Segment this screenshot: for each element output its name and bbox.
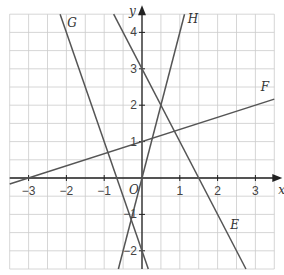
x-axis-label: x — [278, 183, 284, 197]
line-label-G: G — [67, 16, 77, 30]
y-tick-label: −2 — [123, 244, 137, 258]
axes — [10, 5, 283, 269]
line-label-H: H — [187, 12, 199, 26]
x-tick-label: −2 — [60, 184, 74, 198]
x-tick-label: 3 — [252, 184, 259, 198]
labels: −3−2−1123−2−11234xyOEFGH — [22, 4, 284, 258]
y-tick-label: −1 — [123, 207, 137, 221]
x-tick-label: 1 — [176, 184, 183, 198]
y-axis-label: y — [128, 4, 136, 18]
origin-label: O — [129, 183, 139, 197]
line-label-E: E — [229, 218, 239, 232]
coordinate-plot: −3−2−1123−2−11234xyOEFGH — [0, 0, 284, 275]
x-tick-label: 2 — [214, 184, 221, 198]
y-axis-arrow-icon — [138, 5, 146, 15]
y-tick-label: 1 — [130, 135, 137, 149]
x-axis-arrow-icon — [272, 174, 282, 182]
y-tick-label: 2 — [130, 98, 137, 112]
y-tick-label: 4 — [130, 25, 137, 39]
x-tick-label: −3 — [22, 184, 36, 198]
line-label-F: F — [260, 80, 270, 94]
y-tick-label: 3 — [130, 62, 137, 76]
x-tick-label: −1 — [97, 184, 111, 198]
